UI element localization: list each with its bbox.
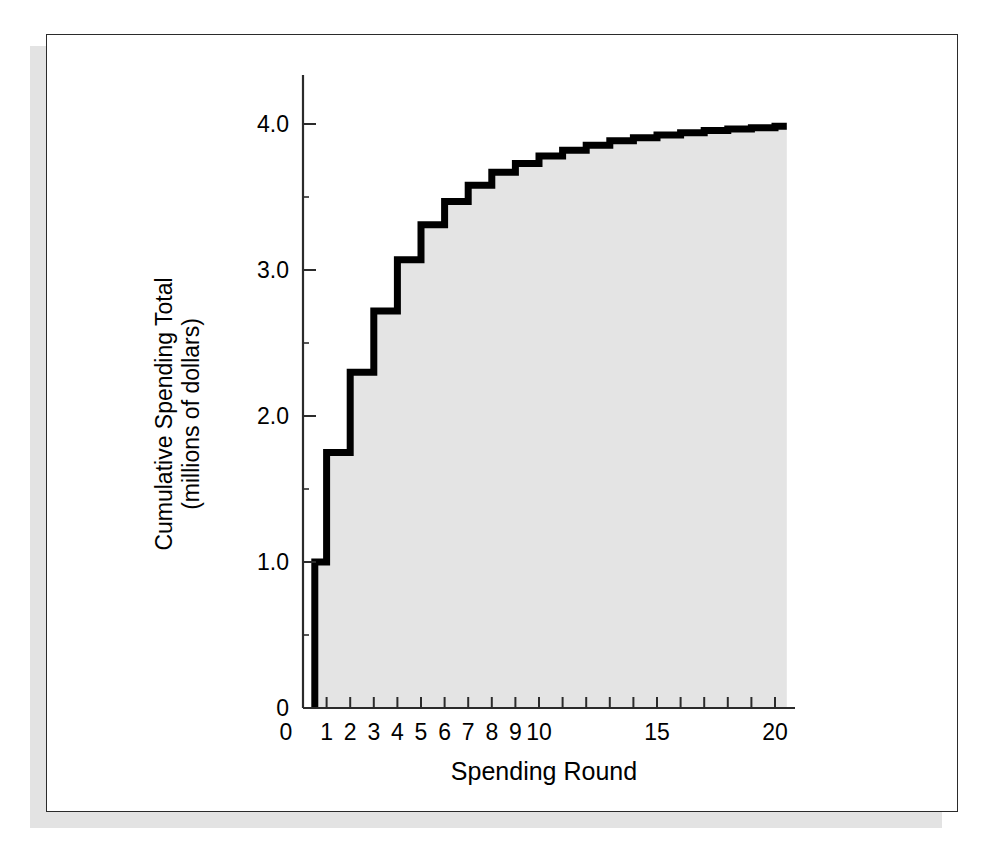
x-tick-label-20: 20 bbox=[762, 721, 788, 744]
y-axis-title: Cumulative Spending Total (millions of d… bbox=[151, 277, 204, 550]
x-tick-label-4: 4 bbox=[391, 721, 404, 744]
x-tick-label-1: 1 bbox=[320, 721, 333, 744]
x-tick-label-8: 8 bbox=[485, 721, 498, 744]
y-tick-label-3.0: 3.0 bbox=[257, 259, 289, 282]
y-tick-label-0: 0 bbox=[276, 697, 289, 720]
x-tick-label-0: 0 bbox=[280, 721, 293, 744]
step-area-fill-group bbox=[315, 126, 787, 708]
x-tick-label-7: 7 bbox=[462, 721, 475, 744]
x-tick-label-2: 2 bbox=[344, 721, 357, 744]
x-axis-title: Spending Round bbox=[451, 757, 637, 786]
y-axis-title-line2: (millions of dollars) bbox=[178, 277, 205, 550]
x-tick-label-9: 9 bbox=[509, 721, 522, 744]
x-tick-label-10: 10 bbox=[526, 721, 552, 744]
x-tick-label-6: 6 bbox=[438, 721, 451, 744]
y-tick-label-1.0: 1.0 bbox=[257, 551, 289, 574]
chart-svg bbox=[0, 0, 984, 844]
x-tick-label-15: 15 bbox=[644, 721, 670, 744]
y-axis-title-line1: Cumulative Spending Total bbox=[151, 277, 178, 550]
y-tick-label-4.0: 4.0 bbox=[257, 113, 289, 136]
step-area-fill bbox=[315, 126, 787, 708]
x-tick-label-3: 3 bbox=[367, 721, 380, 744]
y-tick-label-2.0: 2.0 bbox=[257, 405, 289, 428]
x-tick-label-5: 5 bbox=[415, 721, 428, 744]
chart-plot-area: 012345678910152001.02.03.04.0 Cumulative… bbox=[0, 0, 984, 844]
